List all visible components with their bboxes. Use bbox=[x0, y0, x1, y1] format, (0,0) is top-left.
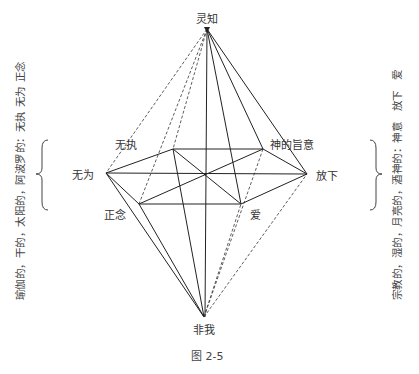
edge-bottom-upper-left bbox=[173, 149, 204, 317]
left-annotation: 瑜伽的，干的，太阳的，阿波罗的：无执 无为 正念 bbox=[12, 61, 27, 300]
edge-top-right bbox=[207, 29, 307, 174]
figure-caption: 图 2-5 bbox=[191, 347, 223, 363]
node-label-lower-left: 正念 bbox=[104, 206, 126, 222]
left-brace bbox=[36, 140, 48, 210]
edge-left-upper-left bbox=[106, 149, 173, 173]
diagram-canvas bbox=[0, 0, 419, 374]
dashed-top-upper-left bbox=[173, 29, 207, 149]
edge-top-lower-right bbox=[207, 29, 241, 204]
edge-top-upper-right bbox=[207, 29, 263, 149]
node-label-bottom: 非我 bbox=[193, 321, 215, 337]
edge-left-lower-left bbox=[106, 173, 139, 204]
right-annotation: 宗教的，湿的，月亮的，酒神的：神意 放下 爱 bbox=[389, 69, 404, 300]
node-label-top: 灵知 bbox=[196, 10, 218, 26]
node-label-left: 无为 bbox=[72, 166, 94, 182]
right-brace bbox=[370, 140, 382, 210]
edge-diag-ll-ur bbox=[139, 149, 263, 204]
edge-diag-ul-lr bbox=[173, 149, 241, 204]
edge-right-lower-right bbox=[241, 174, 307, 204]
edge-bottom-left bbox=[106, 173, 204, 317]
dashed-bottom-right bbox=[204, 174, 307, 317]
node-label-right: 放下 bbox=[316, 167, 338, 183]
dashed-top-lower-left bbox=[139, 29, 207, 204]
node-label-upper-right: 神的旨意 bbox=[270, 136, 314, 152]
edge-bottom-lower-left bbox=[139, 204, 204, 317]
edge-right-upper-right bbox=[263, 149, 307, 174]
node-label-lower-right: 爱 bbox=[250, 206, 261, 222]
dashed-bottom-upper-right bbox=[204, 149, 263, 317]
node-label-upper-left: 无执 bbox=[115, 136, 137, 152]
